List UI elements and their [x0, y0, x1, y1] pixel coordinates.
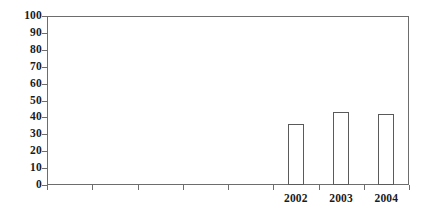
y-axis-tick-label: 80	[0, 44, 42, 55]
x-axis-tick-group	[47, 185, 409, 191]
x-axis-tick-mark	[319, 185, 320, 190]
y-axis-tick-label: 50	[0, 95, 42, 106]
x-axis-tick-mark	[409, 185, 410, 190]
y-axis-label-group: 0102030405060708090100	[0, 0, 42, 219]
x-axis-tick-mark	[364, 185, 365, 190]
y-axis-tick-label: 100	[0, 10, 42, 21]
y-axis-tick-label: 20	[0, 145, 42, 156]
bar-chart: 0102030405060708090100 200220032004	[0, 0, 426, 219]
bar	[288, 124, 304, 185]
x-axis-tick-label: 2002	[284, 192, 308, 205]
y-axis-tick-label: 90	[0, 27, 42, 38]
x-axis-tick-mark	[47, 185, 48, 190]
x-axis-tick-label: 2004	[374, 192, 398, 205]
x-axis-tick-mark	[183, 185, 184, 190]
x-axis-tick-mark	[273, 185, 274, 190]
x-axis-label-group: 200220032004	[47, 192, 409, 214]
y-axis-tick-label: 40	[0, 111, 42, 122]
bar-series-group	[47, 16, 409, 185]
x-axis-tick-mark	[228, 185, 229, 190]
x-axis-tick-mark	[138, 185, 139, 190]
y-axis-tick-label: 70	[0, 61, 42, 72]
x-axis-tick-label: 2003	[329, 192, 353, 205]
bar	[333, 112, 349, 185]
y-axis-tick-label: 0	[0, 179, 42, 190]
y-axis-tick-label: 10	[0, 162, 42, 173]
bar	[378, 114, 394, 185]
x-axis-tick-mark	[92, 185, 93, 190]
y-axis-tick-label: 60	[0, 78, 42, 89]
y-axis-tick-label: 30	[0, 128, 42, 139]
